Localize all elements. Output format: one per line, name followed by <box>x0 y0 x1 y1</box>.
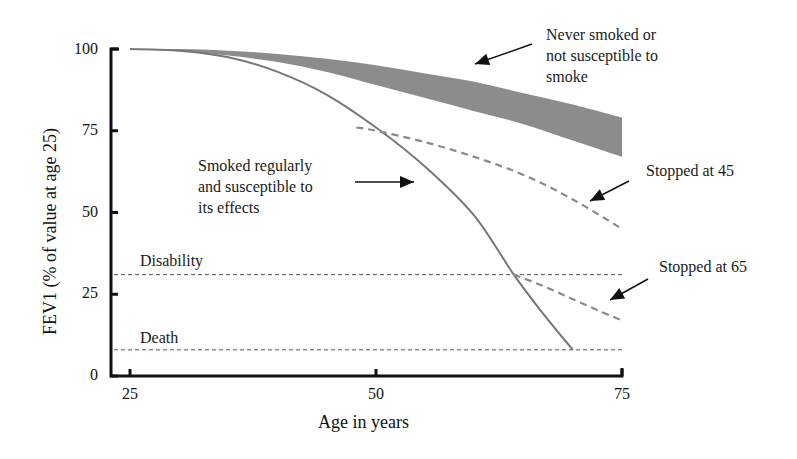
label-never-smoked: Never smoked or not susceptible to smoke <box>546 24 658 87</box>
arrow-smoked-icon-head <box>400 176 414 188</box>
label-disability: Disability <box>140 250 203 271</box>
label-stopped-65: Stopped at 65 <box>659 256 747 277</box>
x-axis-label: Age in years <box>318 412 409 433</box>
x-tick-25: 25 <box>110 385 150 403</box>
label-stopped-45: Stopped at 45 <box>646 160 734 181</box>
arrow-stopped-65-icon-head <box>610 288 625 300</box>
label-line: smoke <box>546 66 658 87</box>
label-death: Death <box>140 327 178 348</box>
label-smoked: Smoked regularly and susceptible to its … <box>198 155 313 218</box>
label-line: its effects <box>198 197 313 218</box>
label-line: Smoked regularly <box>198 155 313 176</box>
label-line: not susceptible to <box>546 45 658 66</box>
arrow-never-smoked-icon-head <box>475 54 490 65</box>
y-tick-50: 50 <box>58 203 98 221</box>
x-tick-50: 50 <box>356 385 396 403</box>
label-line: Never smoked or <box>546 24 658 45</box>
y-tick-0: 0 <box>58 366 98 384</box>
axis-lines <box>111 49 622 376</box>
y-axis-label: FEV1 (% of value at age 25) <box>40 128 61 335</box>
y-tick-25: 25 <box>58 284 98 302</box>
y-tick-100: 100 <box>58 40 98 58</box>
reference-lines <box>114 275 622 350</box>
axes <box>111 49 622 376</box>
y-tick-75: 75 <box>58 121 98 139</box>
label-line: and susceptible to <box>198 176 313 197</box>
x-tick-75: 75 <box>602 385 642 403</box>
